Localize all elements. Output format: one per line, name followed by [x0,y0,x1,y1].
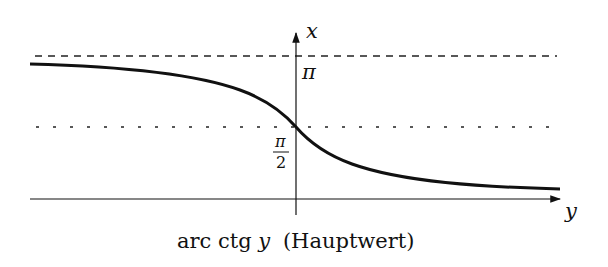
caption-function: arc ctg [177,229,252,253]
half-pi-denominator: 2 [276,153,286,172]
caption-variable: y [257,229,271,253]
pi-tick-label: π [301,60,317,84]
half-pi-numerator: π [274,132,286,151]
arccot-diagram: x π π 2 y arc ctg y (Hauptwert) [0,0,608,267]
caption: arc ctg y (Hauptwert) [177,229,414,253]
caption-note: (Hauptwert) [283,229,415,253]
vertical-axis-label: x [306,19,318,43]
horizontal-axis-label: y [564,199,578,223]
